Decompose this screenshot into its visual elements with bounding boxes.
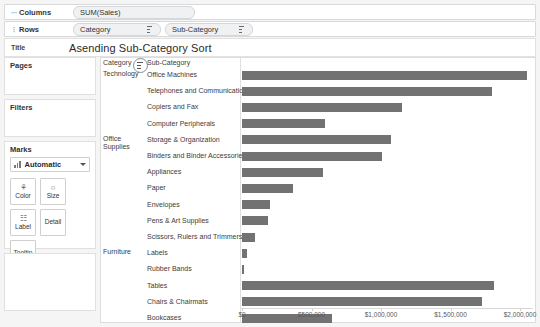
mark-type-value: Automatic [25, 160, 81, 169]
rows-shelf-label: ⋮ Rows [5, 25, 69, 34]
rows-shelf[interactable]: ⋮ Rows Category Sub-Category [4, 21, 536, 37]
bar[interactable] [242, 297, 482, 306]
marks-card: Marks Automatic ⚘ Color ○ Size ☷ Label [4, 141, 96, 249]
pill-category-label: Category [80, 25, 143, 34]
bar[interactable] [242, 103, 402, 112]
row-label[interactable]: Pens & Art Supplies [147, 216, 209, 226]
marks-detail-button[interactable]: Detail [40, 209, 66, 236]
empty-card [4, 253, 96, 311]
row-label[interactable]: Storage & Organization [147, 135, 220, 145]
header-sub-category[interactable]: Sub-Category [147, 59, 190, 66]
pill-sum-sales[interactable]: SUM(Sales) [73, 6, 195, 19]
row-label[interactable]: Binders and Binder Accessories [147, 151, 246, 161]
grip-icon: ⋯ [11, 9, 16, 15]
bar[interactable] [242, 119, 325, 128]
bar[interactable] [242, 135, 391, 144]
bar[interactable] [242, 87, 492, 96]
pages-card-header: Pages [5, 58, 95, 72]
pill-category[interactable]: Category [73, 23, 161, 36]
row-label[interactable]: Appliances [147, 167, 181, 177]
page-title[interactable]: Asending Sub-Category Sort [69, 42, 212, 54]
size-circle-icon: ○ [51, 183, 56, 192]
bar[interactable] [242, 71, 527, 80]
sort-ascending-icon[interactable] [147, 25, 154, 33]
palette-icon: ⚘ [20, 183, 27, 192]
marks-size-label: Size [47, 193, 60, 200]
axis-tick-label: $0 [238, 311, 245, 318]
rows-label-text: Rows [19, 25, 39, 34]
row-label[interactable]: Paper [147, 183, 166, 193]
header-category[interactable]: Category [103, 59, 131, 66]
columns-shelf-body[interactable]: SUM(Sales) [69, 5, 535, 19]
marks-detail-label: Detail [45, 219, 62, 226]
columns-shelf[interactable]: ⋯ Columns SUM(Sales) [4, 4, 536, 20]
grip-icon: ⋮ [11, 26, 16, 32]
row-label[interactable]: Rubber Bands [147, 264, 192, 274]
row-label[interactable]: Copiers and Fax [147, 102, 198, 112]
axis-divider [240, 58, 241, 322]
row-label[interactable]: Envelopes [147, 200, 180, 210]
filters-card-header: Filters [5, 100, 95, 114]
pill-sub-category[interactable]: Sub-Category [165, 23, 253, 36]
row-label[interactable]: Tables [147, 281, 167, 291]
axis-line [241, 308, 533, 309]
row-label[interactable]: Chairs & Chairmats [147, 297, 208, 307]
bar[interactable] [242, 152, 382, 161]
bar[interactable] [242, 265, 244, 274]
chevron-down-icon[interactable] [80, 163, 86, 166]
label-tag-icon: ☷ [20, 214, 27, 223]
bar[interactable] [242, 216, 268, 225]
columns-shelf-label: ⋯ Columns [5, 8, 69, 17]
mark-type-dropdown[interactable]: Automatic [10, 157, 90, 172]
group-label[interactable]: Furniture [103, 248, 145, 257]
marks-color-button[interactable]: ⚘ Color [10, 178, 36, 205]
axis-tick-label: $500,000 [298, 311, 325, 318]
sort-ascending-icon[interactable] [239, 25, 246, 33]
bar[interactable] [242, 184, 293, 193]
chart-view: Category Sub-Category TechnologyOffice S… [100, 57, 536, 323]
bar[interactable] [242, 281, 494, 290]
worksheet-title-bar[interactable]: Title Asending Sub-Category Sort [4, 38, 536, 57]
axis-tick-label: $1,000,000 [365, 311, 398, 318]
pages-card[interactable]: Pages [4, 57, 96, 95]
pill-sum-sales-label: SUM(Sales) [80, 8, 188, 17]
marks-label-label: Label [15, 224, 31, 231]
row-label[interactable]: Scissors, Rulers and Trimmers [147, 232, 242, 242]
axis-tick-label: $2,000,000 [504, 311, 537, 318]
bar[interactable] [242, 168, 323, 177]
pill-sub-category-label: Sub-Category [172, 25, 235, 34]
bar[interactable] [242, 249, 247, 258]
row-label[interactable]: Office Machines [147, 70, 197, 80]
marks-color-label: Color [15, 193, 31, 200]
row-label[interactable]: Computer Peripherals [147, 119, 215, 129]
group-label[interactable]: Office Supplies [103, 135, 145, 152]
row-label[interactable]: Labels [147, 248, 168, 258]
x-axis: $0$500,000$1,000,000$1,500,000$2,000,000 [241, 308, 533, 322]
rows-shelf-body[interactable]: Category Sub-Category [69, 22, 535, 36]
tableau-worksheet: ⋯ Columns SUM(Sales) ⋮ Rows Category Sub… [0, 0, 540, 327]
marks-label-button[interactable]: ☷ Label [10, 209, 36, 236]
row-label[interactable]: Bookcases [147, 313, 181, 323]
filters-card[interactable]: Filters [4, 99, 96, 137]
bar[interactable] [242, 200, 270, 209]
bar[interactable] [242, 233, 255, 242]
sidebar: Pages Filters Marks Automatic ⚘ Color ○ … [4, 57, 96, 323]
field-header-row: Category Sub-Category [101, 58, 535, 69]
columns-label-text: Columns [19, 8, 51, 17]
axis-tick-label: $1,500,000 [434, 311, 467, 318]
row-label[interactable]: Telephones and Communication [147, 86, 247, 96]
marks-size-button[interactable]: ○ Size [40, 178, 66, 205]
bar-chart-icon [14, 161, 21, 168]
title-field-label: Title [5, 44, 69, 51]
group-label[interactable]: Technology [103, 70, 145, 79]
marks-card-header: Marks [5, 142, 95, 156]
